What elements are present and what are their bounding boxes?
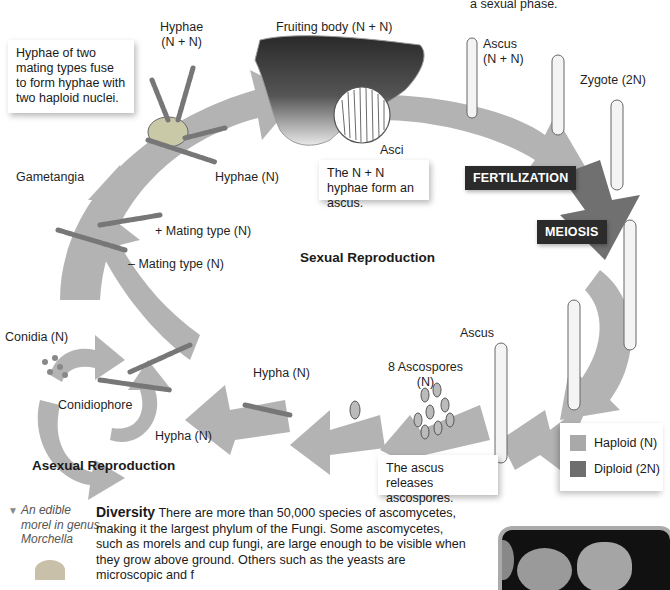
label-ascus: Ascus — [460, 326, 494, 341]
label-hypha-n-middle: Hypha (N) — [253, 366, 310, 381]
spore-2 — [577, 542, 632, 590]
label-hyphae-n: Hyphae (N) — [215, 170, 279, 185]
stage-meiosis: MEIOSIS — [537, 220, 607, 244]
diversity-paragraph: Diversity There are more than 50,000 spe… — [96, 505, 466, 584]
diversity-heading: Diversity — [96, 504, 155, 520]
caption-line3: Morchella — [8, 532, 100, 546]
legend-item-diploid: Diploid (2N) — [570, 461, 660, 477]
label-ascus-nn: Ascus (N + N) — [483, 37, 524, 67]
header-fragment: a sexual phase. — [470, 0, 558, 12]
label-hyphae-nn: Hyphae (N + N) — [160, 20, 203, 50]
title-sexual-reproduction: Sexual Reproduction — [300, 250, 435, 265]
label-ascus-nn-line1: Ascus — [483, 37, 524, 52]
legend-label-diploid: Diploid (2N) — [594, 462, 660, 476]
label-asci: Asci — [380, 143, 404, 158]
label-ascus-nn-line2: (N + N) — [483, 52, 524, 67]
label-minus-mating-type: – Mating type (N) — [128, 257, 224, 272]
spore-1 — [517, 548, 572, 590]
label-hypha-n-lower: Hypha (N) — [155, 429, 212, 444]
label-gametangia: Gametangia — [16, 170, 84, 185]
haploid-swatch — [570, 435, 586, 451]
caption-line2: morel in genus — [8, 518, 100, 532]
label-hyphae-nn-line1: Hyphae — [160, 20, 203, 35]
label-conidia: Conidia (N) — [5, 330, 68, 345]
callout-ascus-release: The ascus releases ascospores. — [378, 455, 498, 495]
diploid-swatch — [570, 461, 586, 477]
label-conidiophore: Conidiophore — [58, 398, 132, 413]
title-asexual-reproduction: Asexual Reproduction — [32, 458, 175, 473]
spore-micrograph — [502, 530, 670, 590]
label-zygote: Zygote (2N) — [580, 73, 646, 88]
callout-hyphae-fuse: Hyphae of two mating types fuse to form … — [8, 40, 134, 113]
legend: Haploid (N) Diploid (2N) — [560, 423, 663, 491]
caption-line1: An edible — [21, 503, 71, 517]
label-ascospores-line2: (N) — [388, 375, 463, 390]
label-ascospores-line1: 8 Ascospores — [388, 360, 463, 375]
legend-label-haploid: Haploid (N) — [594, 436, 657, 450]
stage-fertilization: FERTILIZATION — [465, 166, 576, 190]
triangle-down-icon: ▼ — [8, 505, 18, 516]
morel-image — [35, 560, 65, 580]
label-plus-mating-type: + Mating type (N) — [155, 224, 251, 239]
callout-ascus-form: The N + N hyphae form an ascus. — [319, 160, 429, 200]
legend-item-haploid: Haploid (N) — [570, 435, 657, 451]
photo-caption: ▼An edible morel in genus Morchella — [8, 503, 100, 546]
spore-3 — [502, 540, 514, 580]
label-hyphae-nn-line2: (N + N) — [160, 35, 203, 50]
label-fruiting-body: Fruiting body (N + N) — [276, 20, 392, 35]
label-ascospores: 8 Ascospores (N) — [388, 360, 463, 390]
